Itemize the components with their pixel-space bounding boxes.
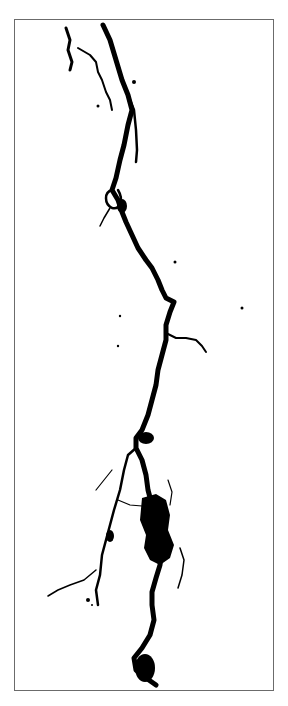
pool-mid	[138, 432, 154, 444]
left-tributary-2	[78, 48, 112, 110]
pool-bottom	[135, 654, 155, 682]
pool-large	[140, 494, 174, 565]
right-tributary-lower	[178, 548, 184, 588]
channel-drawing	[0, 0, 288, 706]
left-tributary-mid	[96, 470, 112, 490]
pool-small-left	[106, 530, 114, 542]
left-tributary-lower	[48, 570, 96, 596]
right-tributary-340	[166, 333, 206, 352]
left-tributary-upper	[66, 28, 72, 70]
pool-upper	[117, 199, 127, 213]
main-channel	[103, 25, 174, 685]
left-branch-200	[100, 208, 110, 226]
braid-left	[96, 448, 136, 605]
braid-cross	[118, 500, 142, 506]
right-tributary-upper	[168, 480, 172, 505]
